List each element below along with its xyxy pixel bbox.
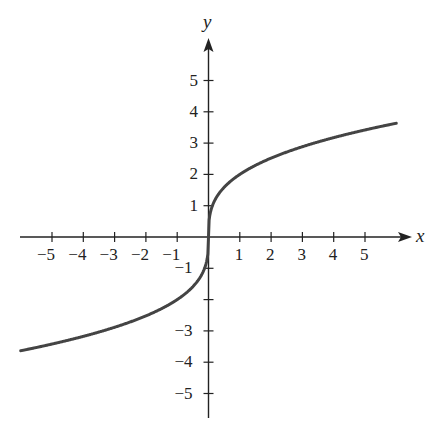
y-tick-label: 1 (190, 197, 199, 214)
x-tick-label: 5 (360, 246, 369, 263)
x-tick-label: −2 (131, 246, 149, 263)
x-tick-label: 3 (297, 246, 306, 263)
y-tick-label: 3 (190, 134, 199, 151)
plot-area (0, 0, 443, 429)
x-tick-label: 4 (329, 246, 338, 263)
x-tick-label: −5 (37, 246, 55, 263)
y-tick-label: 2 (190, 165, 199, 182)
y-axis-label: y (203, 12, 211, 31)
y-tick-label: −1 (175, 259, 193, 276)
y-tick-label: −3 (175, 322, 193, 339)
x-tick-label: −4 (68, 246, 86, 263)
y-tick-label: 4 (190, 103, 199, 120)
x-tick-label: 2 (266, 246, 275, 263)
y-tick-label: −4 (175, 353, 193, 370)
y-tick-label: −5 (175, 385, 193, 402)
y-tick-label: 5 (190, 72, 199, 89)
x-axis-label: x (416, 226, 424, 245)
x-tick-label: −3 (100, 246, 118, 263)
x-tick-label: 1 (235, 246, 244, 263)
